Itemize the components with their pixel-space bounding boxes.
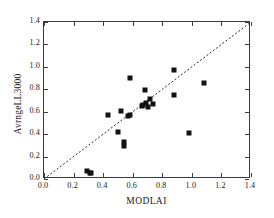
y-tick-label: 0.4 bbox=[29, 129, 40, 137]
data-point-marker bbox=[105, 113, 110, 118]
y-tick-mark bbox=[44, 67, 48, 68]
y-tick-mark bbox=[44, 134, 48, 135]
data-point-marker bbox=[127, 76, 132, 81]
data-point-marker bbox=[145, 105, 150, 110]
data-point-marker bbox=[121, 144, 126, 149]
y-tick-label: 1.2 bbox=[29, 39, 40, 47]
plot-area bbox=[43, 21, 250, 178]
y-tick-mark bbox=[44, 22, 48, 23]
data-point-marker bbox=[89, 171, 94, 176]
data-point-marker bbox=[118, 108, 123, 113]
x-tick-label: 1.2 bbox=[215, 182, 226, 190]
x-tick-mark bbox=[192, 22, 193, 26]
data-point-marker bbox=[151, 101, 156, 106]
x-tick-mark bbox=[221, 22, 222, 26]
y-tick-mark bbox=[245, 134, 249, 135]
data-point-layer bbox=[44, 22, 249, 177]
x-tick-mark bbox=[103, 22, 104, 26]
y-tick-mark bbox=[245, 67, 249, 68]
x-tick-label: 1.4 bbox=[245, 182, 256, 190]
y-tick-mark bbox=[44, 179, 48, 180]
x-tick-mark bbox=[162, 173, 163, 177]
x-tick-label: 1.0 bbox=[186, 182, 197, 190]
data-point-marker bbox=[142, 88, 147, 93]
y-tick-mark bbox=[44, 112, 48, 113]
y-tick-mark bbox=[44, 44, 48, 45]
x-tick-label: 0.4 bbox=[97, 182, 108, 190]
y-tick-label: 0.2 bbox=[29, 151, 40, 159]
y-tick-mark bbox=[44, 89, 48, 90]
x-tick-label: 0.8 bbox=[156, 182, 167, 190]
data-point-marker bbox=[172, 92, 177, 97]
x-tick-mark bbox=[44, 173, 45, 177]
scatter-chart-figure: AvrngeLL3000 0.00.20.40.60.81.01.21.4 0.… bbox=[0, 0, 274, 218]
y-tick-mark bbox=[245, 157, 249, 158]
y-tick-label: 1.0 bbox=[29, 62, 40, 70]
x-tick-mark bbox=[133, 173, 134, 177]
x-tick-mark bbox=[192, 173, 193, 177]
y-tick-mark bbox=[245, 179, 249, 180]
x-tick-mark bbox=[74, 22, 75, 26]
x-tick-mark bbox=[133, 22, 134, 26]
x-tick-mark bbox=[251, 22, 252, 26]
y-tick-mark bbox=[44, 157, 48, 158]
data-point-marker bbox=[172, 68, 177, 73]
y-tick-label: 0.6 bbox=[29, 107, 40, 115]
x-tick-mark bbox=[221, 173, 222, 177]
x-tick-mark bbox=[162, 22, 163, 26]
data-point-marker bbox=[201, 80, 206, 85]
data-point-marker bbox=[127, 113, 132, 118]
x-tick-label: 0.2 bbox=[67, 182, 78, 190]
y-tick-mark bbox=[245, 89, 249, 90]
y-tick-label: 0.8 bbox=[29, 84, 40, 92]
y-tick-mark bbox=[245, 22, 249, 23]
y-axis-title: AvrngeLL3000 bbox=[13, 34, 23, 174]
x-tick-label: 0.0 bbox=[38, 182, 49, 190]
data-point-marker bbox=[186, 131, 191, 136]
x-axis-title: MODLAI bbox=[43, 196, 250, 206]
x-tick-mark bbox=[251, 173, 252, 177]
x-tick-label: 0.6 bbox=[126, 182, 137, 190]
y-tick-mark bbox=[245, 44, 249, 45]
y-tick-label: 1.4 bbox=[29, 17, 40, 25]
x-tick-mark bbox=[103, 173, 104, 177]
data-point-marker bbox=[115, 129, 120, 134]
y-tick-label: 0.0 bbox=[29, 174, 40, 182]
y-tick-mark bbox=[245, 112, 249, 113]
x-tick-mark bbox=[74, 173, 75, 177]
